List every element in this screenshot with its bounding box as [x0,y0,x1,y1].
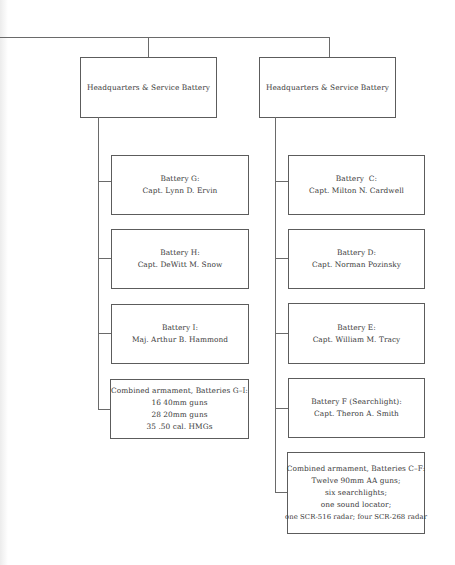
connector-battery-g [98,181,111,182]
armament-gi-line-2: 28 20mm guns [151,409,207,421]
battery-d-box: Battery D: Capt. Norman Pozinsky [288,229,425,289]
armament-gi-title: Combined armament, Batteries G–I: [111,385,248,397]
battery-c-box: Battery C: Capt. Milton N. Cardwell [288,155,425,215]
connector-battery-h [98,258,111,259]
left-hq-label: Headquarters & Service Battery [87,82,210,94]
armament-gi-box: Combined armament, Batteries G–I: 16 40m… [110,379,249,439]
battery-i-title: Battery I: [162,322,198,334]
battery-h-commander: Capt. DeWitt M. Snow [138,259,223,271]
battery-e-commander: Capt. William M. Tracy [313,334,401,346]
battery-c-commander: Capt. Milton N. Cardwell [309,185,404,197]
battery-f-commander: Capt. Theron A. Smith [314,408,399,420]
connector-battery-i [98,333,111,334]
battery-e-title: Battery E: [337,322,376,334]
connector-battery-f [275,408,288,409]
battery-f-title: Battery F (Searchlight): [311,396,402,408]
battery-i-commander: Maj. Arthur B. Hammond [132,334,228,346]
connector-battery-e [275,333,288,334]
battery-d-commander: Capt. Norman Pozinsky [312,259,401,271]
battery-g-title: Battery G: [160,173,199,185]
armament-cf-line-4: one SCR-516 radar; four SCR-268 radar [285,511,427,523]
battery-h-title: Battery H: [160,247,200,259]
left-hq-drop [148,37,149,57]
top-connector [0,37,330,38]
armament-cf-box: Combined armament, Batteries C–F: Twelve… [287,452,425,534]
right-hq-drop [329,37,330,57]
armament-gi-line-3: 35 .50 cal. HMGs [147,421,213,433]
battery-g-commander: Capt. Lynn D. Ervin [143,185,218,197]
armament-cf-title: Combined armament, Batteries C–F: [287,463,426,475]
right-hq-box: Headquarters & Service Battery [259,57,396,118]
left-hq-box: Headquarters & Service Battery [80,57,217,118]
armament-cf-line-3: one sound locator; [321,499,391,511]
armament-cf-line-2: six searchlights; [325,487,387,499]
armament-gi-line-1: 16 40mm guns [151,397,207,409]
right-hq-label: Headquarters & Service Battery [266,82,389,94]
battery-d-title: Battery D: [337,247,376,259]
battery-e-box: Battery E: Capt. William M. Tracy [288,303,425,364]
battery-c-title: Battery C: [336,173,377,185]
left-trunk [98,117,99,410]
battery-g-box: Battery G: Capt. Lynn D. Ervin [111,155,249,215]
battery-f-box: Battery F (Searchlight): Capt. Theron A.… [288,378,425,438]
battery-i-box: Battery I: Maj. Arthur B. Hammond [111,304,249,364]
armament-cf-line-1: Twelve 90mm AA guns; [312,475,401,487]
connector-battery-d [275,258,288,259]
page-edge-shadow [0,0,8,565]
connector-battery-c [275,181,288,182]
right-trunk [275,117,276,493]
battery-h-box: Battery H: Capt. DeWitt M. Snow [111,229,249,289]
